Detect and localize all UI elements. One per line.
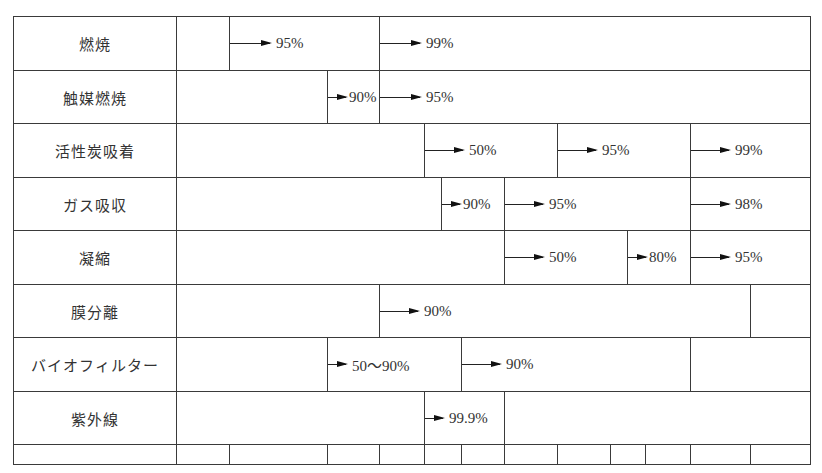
axis-tick-cell	[610, 444, 646, 465]
empty-segment	[176, 337, 328, 392]
axis-tick-cell	[557, 444, 611, 465]
efficiency-value: 95%	[549, 196, 577, 213]
efficiency-segment: 50～90%	[327, 337, 462, 392]
arrow-right-icon	[425, 146, 465, 156]
method-name: 膜分離	[71, 301, 119, 322]
efficiency-value: 50%	[549, 249, 577, 266]
empty-segment	[176, 70, 328, 124]
removal-efficiency-table: 燃焼95%99%触媒燃焼90%95%活性炭吸着50%95%99%ガス吸収90%9…	[13, 16, 810, 464]
arrow-right-icon	[628, 253, 648, 263]
efficiency-value: 50～90%	[352, 354, 410, 375]
efficiency-segment: 80%	[627, 230, 691, 285]
empty-segment	[690, 337, 811, 392]
efficiency-value: 99.9%	[449, 410, 488, 427]
efficiency-value: 95%	[735, 249, 763, 266]
method-name: バイオフィルター	[31, 354, 159, 375]
arrow-right-icon	[442, 199, 462, 209]
axis-tick-cell	[229, 444, 328, 465]
efficiency-segment: 99.9%	[424, 391, 505, 445]
axis-tick-cell	[690, 444, 751, 465]
efficiency-segment: 98%	[690, 177, 811, 231]
efficiency-value: 80%	[649, 249, 677, 266]
efficiency-value: 90%	[424, 303, 452, 320]
method-label: 紫外線	[13, 391, 177, 445]
efficiency-value: 98%	[735, 196, 763, 213]
efficiency-segment: 90%	[327, 70, 380, 124]
efficiency-segment: 95%	[557, 123, 691, 178]
arrow-right-icon	[380, 306, 420, 316]
method-label: 凝縮	[13, 230, 177, 285]
efficiency-segment: 90%	[379, 284, 751, 338]
method-name: 凝縮	[79, 247, 111, 268]
axis-label-cell	[13, 444, 177, 465]
axis-tick-cell	[327, 444, 380, 465]
axis-tick-cell	[424, 444, 462, 465]
method-label: バイオフィルター	[13, 337, 177, 392]
arrow-right-icon	[558, 146, 598, 156]
arrow-right-icon	[691, 146, 731, 156]
empty-segment	[750, 284, 811, 338]
efficiency-segment: 99%	[690, 123, 811, 178]
method-name: ガス吸収	[63, 194, 127, 215]
empty-segment	[504, 391, 811, 445]
arrow-right-icon	[691, 199, 731, 209]
method-name: 触媒燃焼	[63, 87, 127, 108]
method-label: 膜分離	[13, 284, 177, 338]
efficiency-segment: 95%	[690, 230, 811, 285]
arrow-right-icon	[328, 360, 348, 370]
axis-tick-cell	[379, 444, 425, 465]
efficiency-segment: 50%	[424, 123, 558, 178]
efficiency-value: 90%	[349, 89, 377, 106]
efficiency-value: 99%	[426, 35, 454, 52]
axis-tick-cell	[176, 444, 230, 465]
efficiency-segment: 95%	[379, 70, 811, 124]
arrow-right-icon	[328, 92, 348, 102]
efficiency-segment: 95%	[504, 177, 691, 231]
efficiency-value: 95%	[602, 142, 630, 159]
arrow-right-icon	[425, 413, 445, 423]
method-name: 燃焼	[79, 33, 111, 54]
empty-segment	[176, 16, 230, 71]
empty-segment	[176, 284, 380, 338]
method-name: 紫外線	[71, 408, 119, 429]
efficiency-value: 90%	[506, 356, 534, 373]
arrow-right-icon	[380, 39, 422, 49]
arrow-right-icon	[380, 92, 422, 102]
arrow-right-icon	[691, 253, 731, 263]
method-label: 活性炭吸着	[13, 123, 177, 178]
axis-tick-cell	[645, 444, 691, 465]
efficiency-segment: 90%	[461, 337, 691, 392]
arrow-right-icon	[230, 39, 272, 49]
efficiency-value: 90%	[463, 196, 491, 213]
efficiency-value: 50%	[469, 142, 497, 159]
efficiency-segment: 50%	[504, 230, 628, 285]
efficiency-value: 95%	[276, 35, 304, 52]
efficiency-value: 99%	[735, 142, 763, 159]
arrow-right-icon	[505, 253, 545, 263]
method-label: 触媒燃焼	[13, 70, 177, 124]
method-label: 燃焼	[13, 16, 177, 71]
empty-segment	[176, 177, 442, 231]
efficiency-segment: 95%	[229, 16, 380, 71]
empty-segment	[176, 230, 505, 285]
method-label: ガス吸収	[13, 177, 177, 231]
axis-tick-cell	[461, 444, 505, 465]
axis-tick-cell	[750, 444, 811, 465]
efficiency-value: 95%	[426, 89, 454, 106]
efficiency-segment: 90%	[441, 177, 505, 231]
empty-segment	[176, 391, 425, 445]
arrow-right-icon	[505, 199, 545, 209]
efficiency-segment: 99%	[379, 16, 811, 71]
method-name: 活性炭吸着	[55, 140, 135, 161]
empty-segment	[176, 123, 425, 178]
arrow-right-icon	[462, 360, 502, 370]
axis-tick-cell	[504, 444, 558, 465]
